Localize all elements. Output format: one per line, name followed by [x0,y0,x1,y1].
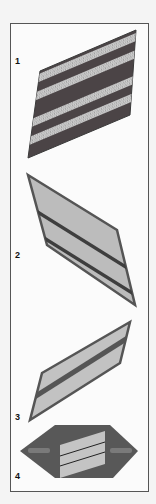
left-tab-icon [28,448,50,453]
item-number-2: 2 [15,251,20,260]
item-number-3: 3 [15,413,20,422]
item-number-1: 1 [15,57,20,66]
insignia-1 [20,27,150,158]
insignia-3 [20,321,150,420]
insignia-2 [20,175,150,306]
insignia-illustrations [0,0,156,504]
insignia-4 [20,425,138,478]
item-number-4: 4 [15,472,20,481]
right-tab-icon [110,448,132,453]
